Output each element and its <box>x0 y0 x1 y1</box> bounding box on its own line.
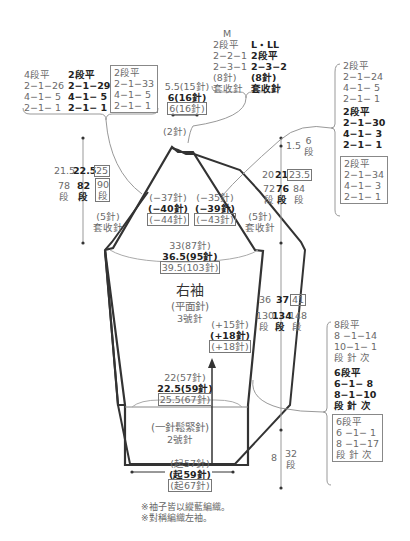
bindoff-line: 套收針 <box>251 83 287 94</box>
cuff-rows: 32段 <box>285 448 296 470</box>
schedule-line: 10−1− 1 <box>334 341 377 352</box>
right-decrease-boxed: 2段平 2−1−34 4−1− 3 2−1− 1 <box>340 156 388 204</box>
bindoff-right: (5針) 套收針 <box>243 211 277 233</box>
bindoff-left: (5針) 套收針 <box>91 211 125 233</box>
right-top-rows: 6段 <box>303 135 314 157</box>
schedule-line: 2−1− 1 <box>24 102 64 113</box>
bindoff-m: M 2段平 2−2−1 2−3−1 (8針) 套收針 <box>213 28 247 94</box>
cuff-height: 8 <box>271 453 277 463</box>
right-decrease-normal: 2段平 2−1−24 4−1− 5 2−1− 1 <box>343 60 383 104</box>
schedule-line: 段 針 次 <box>336 449 379 460</box>
schedule-line: 8段平 <box>334 319 377 330</box>
top-width-label: 5.5(15針) 6(16針) 6(16針) <box>163 81 211 114</box>
note-line: ※對稱編織左袖。 <box>141 513 230 524</box>
right-decrease-bold: 2段平 2−1−30 4−1− 3 2−1− 1 <box>343 106 385 150</box>
left-cap-rows-boxed: 90段 <box>95 178 110 202</box>
cuff-width-normal: 22(57針) <box>140 372 230 383</box>
increase-label: (+15針) (+18針) (+18針) <box>200 319 260 352</box>
schedule-line: 段 針 次 <box>334 352 377 363</box>
schedule-line: 2−1−33 <box>114 78 154 89</box>
schedule-line: 2−1−26 <box>24 80 64 91</box>
schedule-line: 8 −1−17 <box>336 438 379 449</box>
note-line: ※袖子皆以縱藍編織。 <box>141 502 230 513</box>
upper-width: 33(87針) 36.5(95針) 39.5(103針) <box>145 240 235 273</box>
cast-on-normal: (起57針) <box>155 458 225 469</box>
rib-stitch: (一針鬆緊針) <box>130 420 230 434</box>
left-cap-height-bold: 22.5 <box>73 166 96 176</box>
left-cap-height-normal: 21.5 <box>54 166 75 176</box>
schedule-line: 2段平 <box>114 67 154 78</box>
schedule-line: 2−1− 1 <box>344 191 384 202</box>
cast-on: (起57針) (起59針) (起67針) <box>155 458 225 491</box>
increase-boxed: (+18針) <box>209 340 250 353</box>
cast-on-boxed: (起67針) <box>168 479 212 492</box>
schedule-line: 8 −1−14 <box>334 330 377 341</box>
upper-width-normal: 33(87針) <box>145 240 235 251</box>
body-height-bold: 37 <box>276 295 289 305</box>
schedule-line: 6−1− 8 <box>334 378 376 389</box>
bindoff-right-label: 套收針 <box>243 222 277 233</box>
schedule-line: 2段平 <box>68 69 110 80</box>
right-top-height: 1.5 <box>286 141 301 151</box>
notes: ※袖子皆以縱藍編織。 ※對稱編織左袖。 <box>141 502 230 524</box>
bindoff-right-count: (5針) <box>243 211 277 222</box>
right-cap-rows-normal: 72段 <box>263 183 274 205</box>
bindoff-line: (8針) <box>251 72 287 83</box>
right-cap-height-boxed: 23.5 <box>287 169 312 181</box>
schedule-line: 8−1−10 <box>334 389 376 400</box>
right-cap-rows-bold: 76段 <box>276 183 287 205</box>
schedule-line: 6 −1− 1 <box>336 427 379 438</box>
body-rows-boxed: 148段 <box>289 310 305 332</box>
schedule-line: 6段平 <box>334 367 376 378</box>
right-cap-rows-boxed: 84段 <box>293 183 304 205</box>
left-cap-rows-bold: 82段 <box>77 180 88 202</box>
bindoff-line: 2段平 <box>251 50 287 61</box>
top-width-boxed: 6(16針) <box>167 102 207 115</box>
body-rows-normal: 130段 <box>256 310 272 332</box>
schedule-line: 4−1− 5 <box>343 82 383 93</box>
bindoff-line: 2−3−2 <box>251 61 287 72</box>
bindoff-line: 2−2−1 <box>213 50 247 61</box>
bindoff-line: 2段平 <box>213 39 247 50</box>
schedule-line: 2段平 <box>343 60 383 71</box>
schedule-line: 2段平 <box>344 158 384 169</box>
bindoff-left-count: (5針) <box>91 211 125 222</box>
increase-schedule-boxed: 6段平 6 −1− 1 8 −1−17 段 針 次 <box>332 414 383 462</box>
bindoff-line: 套收針 <box>213 83 247 94</box>
ribbing-label: (一針鬆緊針) 2號針 <box>130 420 230 445</box>
bindoff-l-ll: L・LL 2段平 2−3−2 (8針) 套收針 <box>251 39 287 94</box>
cuff-width: 22(57針) 22.5(59針) 25.5(67針) <box>140 372 230 405</box>
body-height-boxed: 41 <box>290 294 306 306</box>
right-cap-height-normal: 20 <box>262 170 274 180</box>
schedule-line: 2−1−30 <box>343 117 385 128</box>
cap-decrease-right-normal: (−35針) <box>185 192 245 203</box>
schedule-line: 2−1−24 <box>343 71 383 82</box>
schedule-line: 2−1− 1 <box>343 139 385 150</box>
top-width-normal: 5.5(15針) <box>163 81 211 92</box>
body-height-normal: 36 <box>259 295 271 305</box>
schedule-line: 4−1− 3 <box>343 128 385 139</box>
schedule-line: 2段平 <box>343 106 385 117</box>
schedule-line: 4−1− 5 <box>114 89 154 100</box>
body-rows-bold: 134段 <box>272 310 288 332</box>
left-cap-height-boxed: 25 <box>94 165 110 177</box>
rib-needle-size: 2號針 <box>130 434 230 445</box>
bindoff-line: 2−3−1 <box>213 61 247 72</box>
piece-title: 右袖 <box>155 281 225 299</box>
schedule-line: 2−1− 1 <box>343 93 383 104</box>
schedule-line: 4−1− 5 <box>68 91 110 102</box>
schedule-line: 4段平 <box>24 69 64 80</box>
bindoff-left-label: 套收針 <box>91 222 125 233</box>
schedule-line: 6段平 <box>336 416 379 427</box>
upper-width-boxed: 39.5(103針) <box>160 261 221 274</box>
cap-decrease-right: (−35針) (−39針) (−43針) <box>185 192 245 225</box>
schedule-line: 2−1− 1 <box>114 100 154 111</box>
schedule-line: 2−1− 1 <box>68 102 110 113</box>
schedule-line: 2−1−29 <box>68 80 110 91</box>
schedule-line: 段 針 次 <box>334 400 376 411</box>
increase-schedule-bold: 6段平 6−1− 8 8−1−10 段 針 次 <box>334 367 376 411</box>
peak-stitch-label: (2針) <box>163 127 186 137</box>
size-label-m: M <box>213 28 247 39</box>
bindoff-line: (8針) <box>213 72 247 83</box>
increase-schedule-normal: 8段平 8 −1−14 10−1− 1 段 針 次 <box>334 319 377 363</box>
